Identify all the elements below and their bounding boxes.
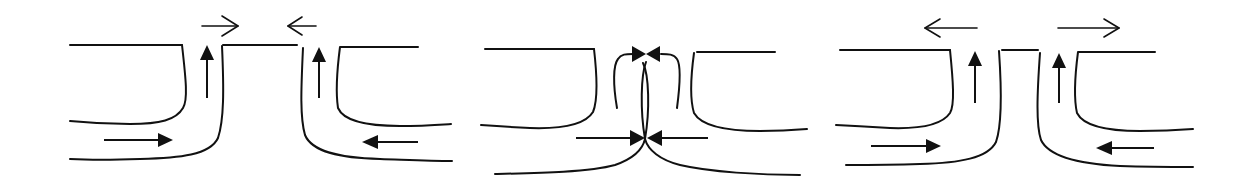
curved-left-flow <box>614 54 633 108</box>
left-channel-wall <box>495 139 645 174</box>
right-arrow-icon <box>576 130 645 146</box>
left-channel-wall <box>70 46 223 160</box>
left-arrow-icon <box>647 130 708 146</box>
flow-diagram: Three schematic panels of converging flo… <box>0 0 1246 185</box>
up-arrow-icon <box>200 45 214 98</box>
left-arrow-icon <box>362 135 418 149</box>
panel-1 <box>70 16 452 161</box>
left-pocket-wall <box>836 50 953 128</box>
right-pocket-wall <box>337 47 451 126</box>
right-arrow-icon <box>104 133 173 147</box>
curved-right-flow <box>661 54 680 108</box>
panel-3 <box>836 19 1193 167</box>
right-open-arrow-icon <box>1058 19 1119 37</box>
left-arrow-icon <box>1096 141 1154 155</box>
converging-arrows-top-icon <box>632 46 660 62</box>
right-channel-wall <box>1038 53 1194 167</box>
right-pocket-wall <box>1075 52 1193 131</box>
left-open-arrow-icon <box>925 19 977 37</box>
up-arrow-icon <box>968 51 982 103</box>
up-arrow-icon <box>312 47 326 98</box>
left-open-arrow-icon <box>288 17 316 35</box>
right-channel-wall <box>645 139 800 175</box>
right-open-arrow-icon <box>202 16 238 36</box>
left-pocket-wall <box>70 45 186 124</box>
left-channel-wall <box>846 51 1001 165</box>
left-pocket-wall <box>481 49 597 128</box>
panel-2 <box>481 46 807 175</box>
right-pocket-wall <box>691 52 807 131</box>
right-arrow-icon <box>871 139 941 153</box>
up-arrow-icon <box>1052 53 1066 103</box>
